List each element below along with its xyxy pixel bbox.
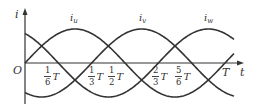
curve-label-i-w: iw: [204, 13, 213, 25]
tick-label-1-2T: 12T: [108, 66, 123, 86]
y-axis-label: i: [15, 9, 19, 20]
curve-label-i-u: iu: [70, 13, 78, 25]
x-axis-arrow-icon: [237, 61, 244, 66]
diagram-canvas: [0, 0, 254, 111]
tick-label-1-3T: 13T: [88, 66, 103, 86]
three-phase-current-diagram: i O T t iu iv iw 16T 13T 12T 23T 56T: [0, 0, 254, 111]
origin-label: O: [13, 65, 22, 76]
tick-label-5-6T: 56T: [175, 66, 190, 86]
period-label: T: [222, 67, 229, 78]
tick-label-2-3T: 23T: [152, 66, 167, 86]
x-axis-label: t: [240, 67, 244, 78]
y-axis-arrow-icon: [23, 8, 28, 15]
curve-label-i-v: iv: [139, 13, 146, 25]
tick-label-1-6T: 16T: [44, 66, 59, 86]
